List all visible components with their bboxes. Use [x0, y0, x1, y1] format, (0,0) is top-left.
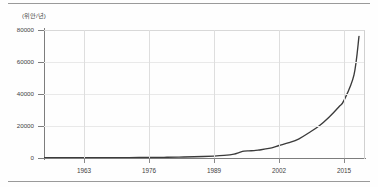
- gridline-vertical: [279, 30, 280, 158]
- x-axis-tick-label: 1989: [194, 166, 234, 175]
- gridline-vertical: [84, 30, 85, 158]
- gridline-vertical: [149, 30, 150, 158]
- gridline-vertical: [214, 30, 215, 158]
- y-axis-tick-label: 60000: [0, 58, 34, 66]
- gridline-horizontal: [44, 62, 364, 63]
- gridline-horizontal: [44, 94, 364, 95]
- plot-area: [44, 30, 364, 158]
- y-axis-tick-label: 40000: [0, 90, 34, 98]
- gridline-vertical: [344, 30, 345, 158]
- x-axis-tick-label: 1963: [64, 166, 104, 175]
- bottom-divider-rule: [8, 181, 370, 182]
- x-axis-tick-label: 1976: [129, 166, 169, 175]
- y-axis-tick-label: 0: [0, 154, 34, 162]
- x-axis-tick-label: 2002: [259, 166, 299, 175]
- y-axis-unit-label: (위안/년): [22, 11, 46, 20]
- x-axis-tick-label: 2015: [324, 166, 364, 175]
- top-divider-rule: [8, 3, 370, 4]
- y-axis-tick-label: 20000: [0, 122, 34, 130]
- y-axis-tick-label: 80000: [0, 26, 34, 34]
- gridline-horizontal: [44, 126, 364, 127]
- chart-screenshot: (위안/년) 020000400006000080000 19631976198…: [0, 0, 378, 187]
